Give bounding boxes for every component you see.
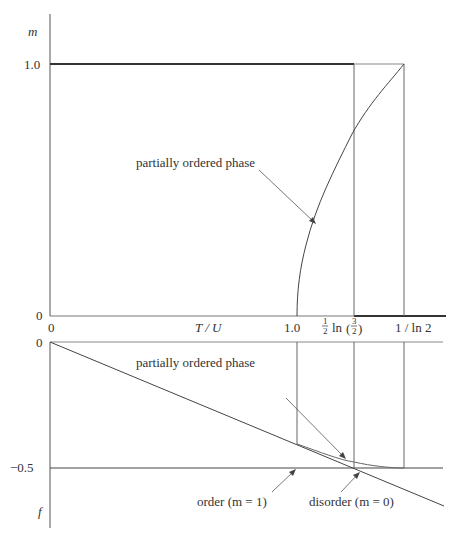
top-y-tick-one: 1.0 xyxy=(24,57,40,72)
order-arrow xyxy=(272,471,294,492)
frac-num: 3 xyxy=(352,316,357,326)
partial-order-curve xyxy=(297,64,404,316)
bottom-y-tick-half: −0.5 xyxy=(10,460,34,475)
ln-text: ln xyxy=(332,320,343,335)
x-tick-one: 1.0 xyxy=(284,320,300,335)
top-annotation: partially ordered phase xyxy=(136,155,255,170)
x-axis-label: T / U xyxy=(195,320,223,335)
x-tick-half-ln-three-halves: 1 2 ln ( 3 2 ) xyxy=(322,316,362,336)
top-annotation-arrow xyxy=(259,170,314,222)
bottom-panel: 0 −0.5 f partially ordered phase order (… xyxy=(10,335,444,528)
frac-den: 2 xyxy=(352,326,357,336)
x-tick-labels: 0 T / U 1.0 1 2 ln ( 3 2 ) 1 / ln 2 xyxy=(48,316,431,336)
bottom-annotation-arrow xyxy=(286,398,344,457)
phase-diagram-chart: m 1.0 0 partially ordered phase 0 T / U … xyxy=(0,0,462,536)
paren-close: ) xyxy=(358,321,362,336)
half-den: 2 xyxy=(323,326,328,336)
bottom-annotation: partially ordered phase xyxy=(136,355,255,370)
disorder-label: disorder (m = 0) xyxy=(309,494,394,509)
top-ylabel: m xyxy=(28,24,37,39)
half-num: 1 xyxy=(323,316,328,326)
x-tick-zero: 0 xyxy=(48,320,55,335)
x-tick-inv-ln2: 1 / ln 2 xyxy=(395,320,431,335)
paren-open: ( xyxy=(346,321,350,336)
bottom-y-tick-zero: 0 xyxy=(36,335,43,350)
bottom-partial-order-curve xyxy=(297,444,404,468)
bottom-ylabel: f xyxy=(38,504,44,519)
order-label: order (m = 1) xyxy=(197,494,267,509)
top-y-tick-zero: 0 xyxy=(36,308,43,323)
top-panel: m 1.0 0 partially ordered phase xyxy=(24,14,446,323)
